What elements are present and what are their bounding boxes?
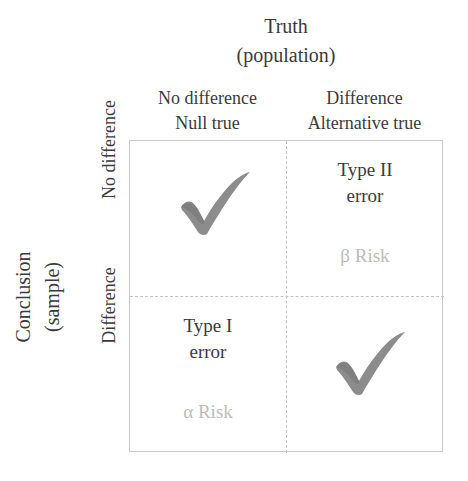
column-group-title-line2: (population) xyxy=(129,41,443,70)
row-group-title: Conclusion (sample) xyxy=(9,197,67,397)
cell-type-ii-error-line1: Type II xyxy=(287,157,443,183)
cell-type-ii-error-title: Type II error xyxy=(287,157,443,209)
cell-type-i-error-line1: Type I xyxy=(130,313,286,339)
cell-type-i-error-title: Type I error xyxy=(130,313,286,365)
column-group-title-line1: Truth xyxy=(129,12,443,41)
alpha-risk-label: α Risk xyxy=(130,400,286,424)
column-header-no-difference-line2: Null true xyxy=(129,111,286,136)
cell-type-ii-error-line2: error xyxy=(287,183,443,209)
column-group-title: Truth (population) xyxy=(129,12,443,70)
row-group-title-line1: Conclusion xyxy=(9,197,38,397)
cell-correct-no-difference xyxy=(130,141,286,296)
cell-type-i-error-line2: error xyxy=(130,339,286,365)
cell-type-i-error: Type I error α Risk xyxy=(130,297,286,452)
column-header-difference-line2: Alternative true xyxy=(286,111,443,136)
row-header-difference: Difference xyxy=(99,228,120,384)
cell-type-ii-error: Type II error β Risk xyxy=(287,141,443,296)
column-header-no-difference: No difference Null true xyxy=(129,86,286,136)
column-header-no-difference-line1: No difference xyxy=(129,86,286,111)
cell-correct-difference xyxy=(287,297,443,452)
column-header-difference: Difference Alternative true xyxy=(286,86,443,136)
row-header-no-difference: No difference xyxy=(99,72,120,228)
row-group-title-line2: (sample) xyxy=(38,197,67,397)
check-mark-icon xyxy=(331,331,409,397)
beta-risk-label: β Risk xyxy=(287,244,443,268)
column-header-difference-line1: Difference xyxy=(286,86,443,111)
check-mark-icon xyxy=(176,171,254,237)
decision-matrix: Type II error β Risk Type I error α Risk xyxy=(129,140,443,452)
